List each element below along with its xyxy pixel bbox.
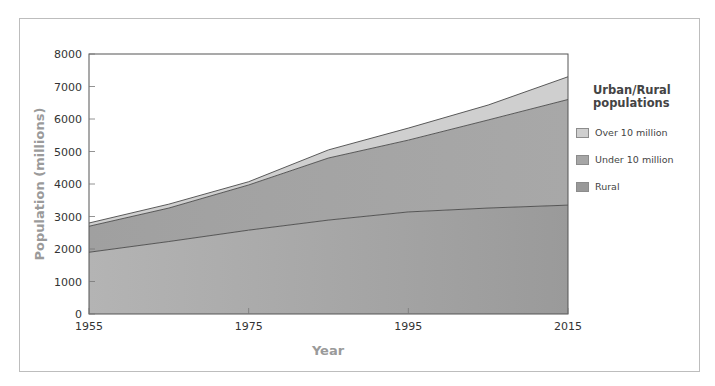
y-tick-label: 1000	[54, 276, 82, 289]
swatch-under-10-million	[576, 155, 589, 165]
y-tick-label: 7000	[54, 81, 82, 94]
legend-item-over-10-million: Over 10 million	[576, 119, 703, 146]
y-axis-title: Population (millions)	[32, 108, 47, 261]
legend-item-under-10-million: Under 10 million	[576, 146, 703, 173]
x-tick-label: 1955	[75, 320, 103, 333]
legend-title: Urban/Rural populations	[593, 84, 703, 110]
y-tick-label: 6000	[54, 113, 82, 126]
y-tick-label: 8000	[54, 48, 82, 61]
legend-items: Over 10 million Under 10 million Rural	[576, 119, 703, 200]
swatch-rural	[576, 182, 589, 192]
swatch-over-10-million	[576, 128, 589, 138]
x-tick-label: 1975	[235, 320, 263, 333]
y-tick-label: 5000	[54, 146, 82, 159]
legend-label: Over 10 million	[595, 127, 668, 138]
legend-title-line2: populations	[593, 97, 703, 110]
plot-areas	[89, 77, 568, 314]
x-tick-label: 2015	[554, 320, 582, 333]
x-tick-label: 1995	[394, 320, 422, 333]
legend-label: Under 10 million	[595, 154, 674, 165]
legend-item-rural: Rural	[576, 173, 703, 200]
legend-label: Rural	[595, 181, 620, 192]
legend: Urban/Rural populations Over 10 million …	[588, 84, 703, 200]
y-tick-label: 4000	[54, 178, 82, 191]
y-tick-label: 3000	[54, 211, 82, 224]
x-axis-title: Year	[311, 343, 345, 358]
y-tick-label: 2000	[54, 243, 82, 256]
